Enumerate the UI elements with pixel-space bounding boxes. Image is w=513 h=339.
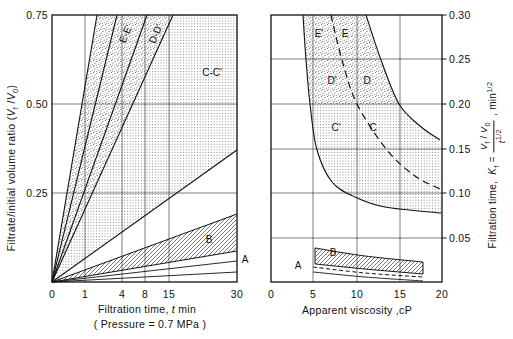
left-x-tick-label: 0 — [49, 289, 55, 300]
left-x-tick-label: 15 — [163, 289, 175, 300]
right-region-label-E: E — [342, 29, 349, 39]
right-region-label-E: E' — [315, 29, 324, 39]
left-x-tick-label: 8 — [142, 289, 148, 300]
right-x-tick-label: 0 — [268, 289, 274, 300]
right-region-label-C: C — [369, 123, 376, 133]
right-panel-graphics — [271, 15, 447, 282]
left-region-label-A: A — [242, 255, 249, 265]
right-x-axis-label: Apparent viscosity ,cP — [302, 305, 412, 317]
right-y-tick-label: 0.25 — [449, 54, 471, 65]
right-y-axis-label-prefix: Filtration time, Kf = — [488, 156, 499, 248]
right-x-tick-label: 20 — [436, 289, 448, 300]
left-x-tick-label: 4 — [119, 289, 125, 300]
left-y-tick-label: 0.50 — [26, 99, 48, 110]
kf-fraction-denominator: t1/2 — [494, 120, 508, 152]
right-y-tick-label: 0.30 — [449, 10, 471, 21]
left-y-tick-label: 0.75 — [26, 10, 48, 21]
right-y-tick-label: 0.20 — [449, 99, 471, 110]
left-y-axis-label: Filtrate/initial volume ratio (Vf /V0) — [6, 85, 20, 252]
left-region-label-CC: C-C' — [202, 68, 222, 78]
right-x-tick-label: 5 — [310, 289, 316, 300]
right-region-label-A: A — [295, 261, 302, 271]
right-y-axis-label: Filtration time, Kf = Vf / V0 t1/2 , min… — [480, 82, 507, 249]
left-region-label-B: B — [206, 235, 213, 245]
right-region-label-D: D — [363, 76, 370, 86]
left-x-axis-pressure-note: ( Pressure = 0.7 MPa ) — [94, 319, 207, 331]
right-region-label-C: C' — [331, 123, 340, 133]
right-region-label-B: B — [330, 248, 337, 258]
kf-fraction: Vf / V0 t1/2 — [480, 120, 507, 152]
right-y-tick-label: 0.05 — [449, 233, 471, 244]
kf-fraction-numerator: Vf / V0 — [480, 120, 494, 152]
left-x-tick-label: 30 — [231, 289, 243, 300]
right-y-tick-label: 0.10 — [449, 188, 471, 199]
right-region-label-D: D' — [327, 76, 336, 86]
right-x-tick-label: 15 — [394, 289, 406, 300]
left-x-tick-label: 1 — [82, 289, 88, 300]
right-x-tick-label: 10 — [351, 289, 363, 300]
right-y-axis-label-suffix: , min1/2 — [488, 82, 499, 117]
filtration-figure: Filtrate/initial volume ratio (Vf /V0) F… — [0, 0, 513, 339]
left-x-axis-label: Filtration time, t min — [98, 304, 196, 316]
right-y-tick-label: 0.15 — [449, 144, 471, 155]
left-y-tick-label: 0.25 — [26, 188, 48, 199]
